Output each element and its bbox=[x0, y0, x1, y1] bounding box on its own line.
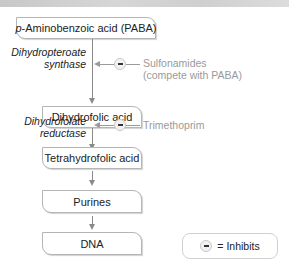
node-dna: DNA bbox=[42, 232, 142, 255]
inhibit-line-2b bbox=[126, 125, 140, 126]
arrowhead-1 bbox=[89, 98, 95, 104]
legend-label: = Inhibits bbox=[217, 240, 259, 252]
enzyme-dihydrofolate-reductase: Dihydrofolate reductase bbox=[4, 115, 86, 139]
arrowhead-3 bbox=[89, 180, 95, 186]
drug-sulfonamides: Sulfonamides (compete with PABA) bbox=[143, 57, 242, 81]
inhibit-icon bbox=[114, 58, 126, 70]
node-paba-label: p-Aminobenzoic acid (PABA) bbox=[15, 22, 156, 34]
inhibit-line-2a bbox=[99, 125, 114, 126]
legend: = Inhibits bbox=[182, 233, 278, 259]
inhibit-line-1b bbox=[126, 64, 140, 65]
header-banner bbox=[0, 0, 289, 7]
inhibit-icon bbox=[200, 240, 212, 252]
inhibit-line-1a bbox=[99, 64, 114, 65]
enzyme-dihydropteroate-synthase: Dihydropteroate synthase bbox=[4, 46, 86, 70]
node-purines: Purines bbox=[42, 190, 142, 213]
arrow-shaft-1 bbox=[92, 39, 93, 101]
node-tetrahydrofolic-acid: Tetrahydrofolic acid bbox=[42, 147, 142, 169]
node-paba: p-Aminobenzoic acid (PABA) bbox=[16, 17, 156, 39]
arrowhead-4 bbox=[89, 224, 95, 230]
drug-trimethoprim: Trimethoprim bbox=[143, 119, 204, 131]
inhibit-icon bbox=[114, 119, 126, 131]
